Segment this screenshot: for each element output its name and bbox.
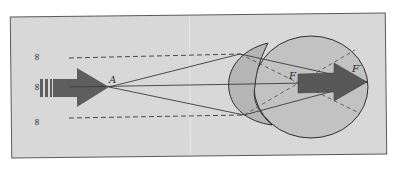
infinity-label-top: ∞ [32,53,43,61]
diagram-stage: ∞ ∞ ∞ A F F′ [0,0,399,170]
source-arrow-bar-2 [45,79,48,97]
infinity-label-bottom: ∞ [32,118,43,126]
point-a-label: A [108,74,116,85]
eye-optics-diagram: ∞ ∞ ∞ A F F′ [0,0,399,170]
focus-f-label: F [288,70,297,81]
source-arrow-bar-3 [50,79,52,97]
infinity-label-middle: ∞ [32,83,43,91]
focus-f-prime-label: F′ [351,63,362,74]
